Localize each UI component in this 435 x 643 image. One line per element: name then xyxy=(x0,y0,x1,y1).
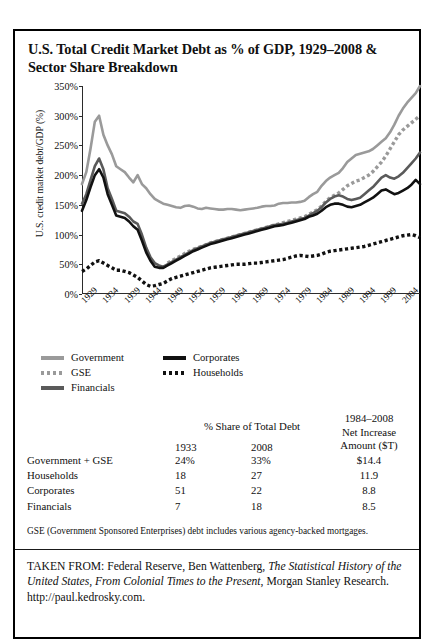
legend-row: Financials xyxy=(41,380,381,395)
table-blank-cell xyxy=(27,432,175,452)
net-header-line-3: Amount ($T) xyxy=(340,439,397,451)
table-row: Financials7188.5 xyxy=(27,499,409,514)
legend-swatch-icon xyxy=(41,386,64,390)
legend-item-households: Households xyxy=(163,367,243,378)
source-prefix: TAKEN FROM: Federal Reserve, Ben Wattenb… xyxy=(27,560,268,573)
legend-item-corporates: Corporates xyxy=(163,352,239,363)
cell-share-1933: 18 xyxy=(175,468,251,483)
legend-label: Financials xyxy=(71,382,115,393)
table-row: Corporates51228.8 xyxy=(27,483,409,498)
cell-net-increase: $14.4 xyxy=(329,453,409,468)
chart-legend: GovernmentCorporatesGSEHouseholdsFinanci… xyxy=(41,350,381,395)
table-head: % Share of Total Debt 1984–2008 Net Incr… xyxy=(27,412,409,453)
row-label: Financials xyxy=(27,499,175,514)
row-label: Households xyxy=(27,468,175,483)
page-title: U.S. Total Credit Market Debt as % of GD… xyxy=(28,40,406,76)
y-tick-label: 350% xyxy=(18,81,78,92)
legend-item-government: Government xyxy=(41,352,163,363)
divider xyxy=(15,549,419,550)
row-label: Corporates xyxy=(27,483,175,498)
plot-area: 0%50%100%150%200%250%300%350% 1929193419… xyxy=(82,86,420,294)
net-header-line-2: Net Increase xyxy=(342,426,396,438)
table-corner-blank xyxy=(27,412,175,432)
legend-swatch-icon xyxy=(41,371,64,375)
cell-share-2008: 27 xyxy=(251,468,329,483)
legend-swatch-icon xyxy=(163,356,186,360)
source-attribution: TAKEN FROM: Federal Reserve, Ben Wattenb… xyxy=(27,559,407,605)
cell-net-increase: 8.5 xyxy=(329,499,409,514)
legend-item-financials: Financials xyxy=(41,382,163,393)
legend-label: Corporates xyxy=(193,352,239,363)
figure-container: U.S. Total Credit Market Debt as % of GD… xyxy=(13,29,421,639)
chart-series xyxy=(82,86,420,294)
table-header-group-row: % Share of Total Debt 1984–2008 Net Incr… xyxy=(27,412,409,432)
table-row: Government + GSE24%33%$14.4 xyxy=(27,453,409,468)
legend-swatch-icon xyxy=(163,371,186,375)
y-tick-label: 250% xyxy=(18,140,78,151)
series-line-corporates xyxy=(82,169,420,268)
legend-label: Households xyxy=(193,367,243,378)
table-header-2008: 2008 xyxy=(251,432,329,452)
title-block: U.S. Total Credit Market Debt as % of GD… xyxy=(15,31,419,76)
cell-net-increase: 8.8 xyxy=(329,483,409,498)
legend-swatch-icon xyxy=(41,356,64,360)
table-group-header: % Share of Total Debt xyxy=(175,412,329,432)
table-row: Households182711.9 xyxy=(27,468,409,483)
y-tick-label: 200% xyxy=(18,170,78,181)
table-net-increase-header: 1984–2008 Net Increase Amount ($T) xyxy=(329,412,409,453)
y-tick-label: 50% xyxy=(18,259,78,270)
sector-share-table: % Share of Total Debt 1984–2008 Net Incr… xyxy=(27,412,409,514)
table-header-1933: 1933 xyxy=(175,432,251,452)
cell-share-2008: 22 xyxy=(251,483,329,498)
series-line-households xyxy=(82,235,420,287)
legend-row: GovernmentCorporates xyxy=(41,350,381,365)
cell-share-2008: 18 xyxy=(251,499,329,514)
y-tick-label: 0% xyxy=(18,289,78,300)
cell-share-1933: 24% xyxy=(175,453,251,468)
title-line-1: U.S. Total Credit Market Debt as % of GD… xyxy=(28,41,377,57)
row-label: Government + GSE xyxy=(27,453,175,468)
cell-net-increase: 11.9 xyxy=(329,468,409,483)
legend-item-gse: GSE xyxy=(41,367,163,378)
legend-label: GSE xyxy=(71,367,91,378)
y-tick-label: 100% xyxy=(18,229,78,240)
table-body: Government + GSE24%33%$14.4Households182… xyxy=(27,453,409,515)
cell-share-1933: 51 xyxy=(175,483,251,498)
y-tick-label: 300% xyxy=(18,110,78,121)
legend-label: Government xyxy=(71,352,124,363)
title-line-2: Sector Share Breakdown xyxy=(28,59,178,75)
y-tick-label: 150% xyxy=(18,199,78,210)
legend-row: GSEHouseholds xyxy=(41,365,381,380)
cell-share-1933: 7 xyxy=(175,499,251,514)
cell-share-2008: 33% xyxy=(251,453,329,468)
net-header-line-1: 1984–2008 xyxy=(345,412,394,424)
footnote: GSE (Government Sponsored Enterprises) d… xyxy=(27,526,397,538)
chart-area: U.S. credit market debt/GDP (%) 0%50%100… xyxy=(15,80,419,348)
